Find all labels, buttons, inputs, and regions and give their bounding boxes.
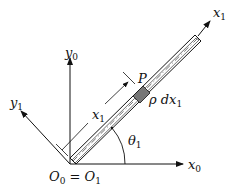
origin-label: O0 = O1 [49,170,101,186]
y0-axis-label: y0 [65,46,78,62]
angle-arc-end-dot [111,127,113,129]
x1-axis [198,21,210,36]
x1-distance-label: x1 [92,108,105,124]
x0-axis-label: x0 [188,158,201,174]
x1-dimension-arrow [105,82,128,104]
angle-arc [112,128,125,164]
y1-axis-label: y1 [10,96,23,112]
dimension-tick-p [123,72,135,84]
point-p-label: P [138,72,147,85]
x1-axis-label: x1 [213,6,226,22]
mass-element-label: ρ dx1 [149,93,182,109]
x1-dimension-line [62,123,88,150]
y1-axis [21,111,70,164]
angle-label: θ1 [128,134,142,150]
mass-element [133,86,150,103]
rotating-rod-diagram: x1 y0 y1 x0 x1 P ρ dx1 θ1 O0 = O1 [0,0,235,187]
